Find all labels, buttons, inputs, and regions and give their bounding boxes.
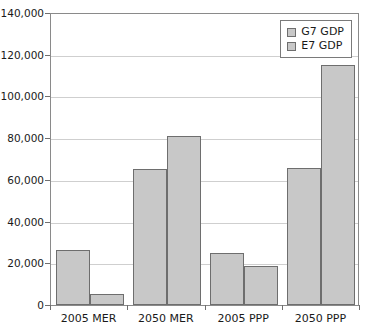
legend-item-e7-gdp: E7 GDP	[287, 39, 344, 53]
y-axis-tick-label: 80,000	[0, 133, 44, 143]
legend-swatch-icon	[287, 42, 296, 51]
bar-e7-gdp-2005-mer	[90, 294, 124, 305]
legend-label: E7 GDP	[301, 40, 342, 52]
x-axis-label-2050-mer: 2050 MER	[127, 312, 204, 325]
legend-label: G7 GDP	[301, 26, 344, 38]
y-axis-tick-label: 40,000	[0, 217, 44, 227]
bar-e7-gdp-2050-ppp	[321, 65, 355, 305]
y-axis-tick-label: 140,000	[0, 8, 44, 18]
y-axis-tick-label: 60,000	[0, 175, 44, 185]
bar-g7-gdp-2050-mer	[133, 169, 167, 305]
x-axis-tick-mark	[205, 305, 206, 310]
legend-item-g7-gdp: G7 GDP	[287, 25, 344, 39]
bar-g7-gdp-2005-mer	[56, 250, 90, 305]
y-axis-tick-label: 100,000	[0, 91, 44, 101]
x-axis-tick-mark	[359, 305, 360, 310]
x-axis-tick-mark	[282, 305, 283, 310]
bar-e7-gdp-2050-mer	[167, 136, 201, 305]
x-axis-label-2005-ppp: 2005 PPP	[205, 312, 282, 325]
bar-e7-gdp-2005-ppp	[244, 266, 278, 305]
x-axis-tick-mark	[127, 305, 128, 310]
y-axis-tick-label: 0	[0, 300, 44, 310]
gridline	[51, 139, 358, 140]
x-axis-label-2005-mer: 2005 MER	[50, 312, 127, 325]
bar-g7-gdp-2005-ppp	[210, 253, 244, 305]
chart-legend: G7 GDPE7 GDP	[280, 20, 352, 58]
gridline	[51, 97, 358, 98]
legend-swatch-icon	[287, 28, 296, 37]
bar-g7-gdp-2050-ppp	[287, 168, 321, 305]
y-axis-tick-label: 120,000	[0, 50, 44, 60]
x-axis-label-2050-ppp: 2050 PPP	[282, 312, 359, 325]
y-axis-tick-label: 20,000	[0, 258, 44, 268]
x-axis-tick-mark	[50, 305, 51, 310]
bar-chart: 020,00040,00060,00080,000100,000120,0001…	[0, 0, 366, 334]
plot-area: G7 GDPE7 GDP	[50, 13, 359, 305]
y-axis: 020,00040,00060,00080,000100,000120,0001…	[0, 0, 44, 334]
